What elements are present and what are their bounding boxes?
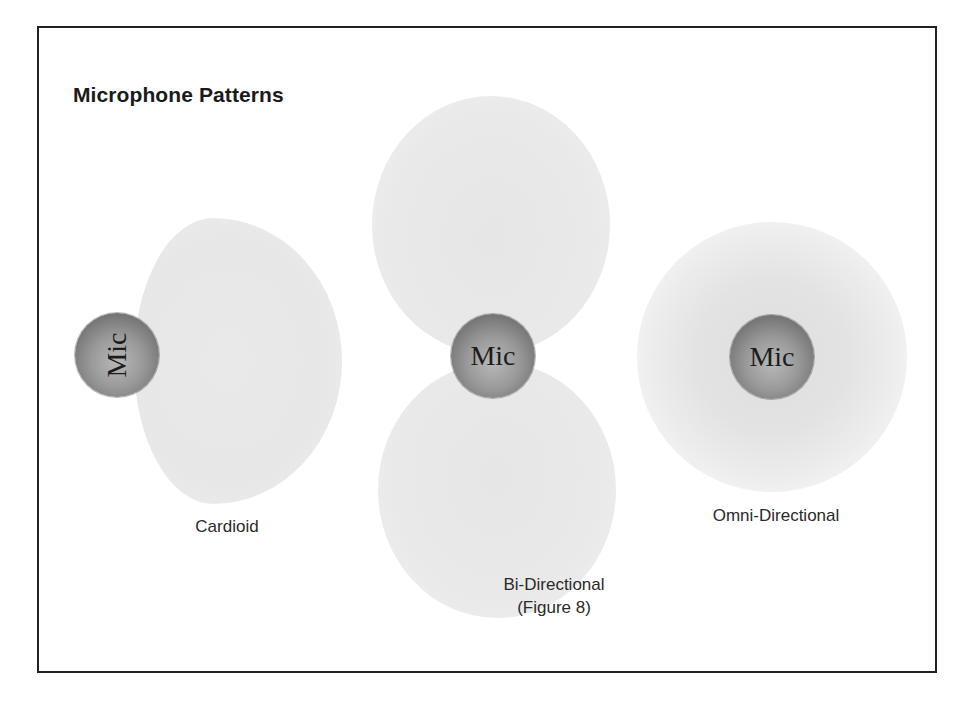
bidirectional-mic-icon: Mic bbox=[451, 314, 535, 398]
bidirectional-caption-line-2: (Figure 8) bbox=[474, 596, 634, 619]
cardioid-caption-line: Cardioid bbox=[157, 515, 297, 538]
omnidirectional-caption-line: Omni-Directional bbox=[686, 504, 866, 527]
omnidirectional-mic-label: Mic bbox=[749, 343, 794, 371]
bidirectional-caption: Bi-Directional (Figure 8) bbox=[474, 573, 634, 619]
cardioid-mic-label: Mic bbox=[103, 332, 131, 377]
cardioid-mic-icon: Mic bbox=[75, 313, 159, 397]
diagram-title: Microphone Patterns bbox=[73, 83, 284, 107]
bidirectional-caption-line-1: Bi-Directional bbox=[474, 573, 634, 596]
bidirectional-mic-label: Mic bbox=[470, 342, 515, 370]
omnidirectional-caption: Omni-Directional bbox=[686, 504, 866, 527]
omnidirectional-mic-icon: Mic bbox=[730, 315, 814, 399]
cardioid-caption: Cardioid bbox=[157, 515, 297, 538]
